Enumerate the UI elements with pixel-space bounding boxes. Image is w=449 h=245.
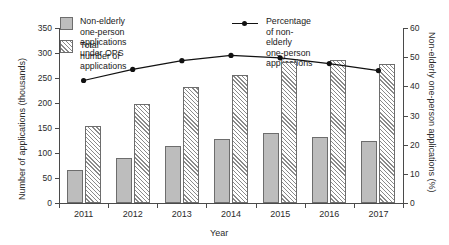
x-tick-6 (354, 204, 355, 208)
right-axis-title: Non-elderly one-person applications (%) (427, 32, 437, 193)
x-tick-5 (305, 204, 306, 208)
x-ticklabel-2011: 2011 (61, 209, 107, 219)
x-axis-title: Year (210, 228, 228, 238)
x-tick-4 (256, 204, 257, 208)
x-tick-2 (157, 204, 158, 208)
left-axis-title: Number of applications (thousands) (17, 58, 27, 200)
x-tick-0 (59, 204, 60, 208)
line-marker-2011 (81, 78, 86, 83)
chart-figure: Non-elderly one-person applications unde… (0, 0, 449, 245)
line-marker-2016 (327, 61, 332, 66)
line-marker-2013 (179, 58, 184, 63)
x-ticklabel-2013: 2013 (159, 209, 205, 219)
x-tick-1 (108, 204, 109, 208)
line-marker-2014 (228, 53, 233, 58)
line-marker-2015 (278, 55, 283, 60)
x-tick-3 (206, 204, 207, 208)
x-ticklabel-2014: 2014 (208, 209, 254, 219)
x-ticklabel-2012: 2012 (110, 209, 156, 219)
x-tick-7 (403, 204, 404, 208)
x-ticklabel-2017: 2017 (355, 209, 401, 219)
x-ticklabel-2015: 2015 (257, 209, 303, 219)
x-ticklabel-2016: 2016 (306, 209, 352, 219)
line-marker-2012 (130, 67, 135, 72)
line-marker-2017 (376, 68, 381, 73)
